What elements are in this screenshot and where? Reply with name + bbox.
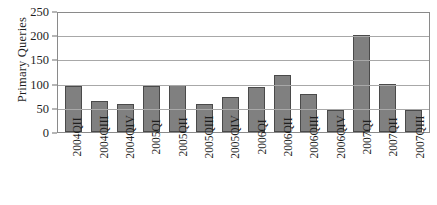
x-axis-tick-label: 2006QIV (336, 115, 348, 158)
gridline (58, 60, 429, 61)
y-axis-tick-50: 50 (37, 103, 50, 116)
x-axis-tick-cell: 2007QI (353, 133, 370, 205)
bar-chart: Primary Queries 250200150100500 2004QII2… (0, 0, 437, 205)
x-axis-tick-cell: 2006QIII (301, 133, 318, 205)
y-axis-tick-150: 150 (30, 54, 49, 67)
x-axis-tick-cell: 2005QII (169, 133, 186, 205)
x-axis-tick-label: 2004QIII (99, 116, 111, 159)
bar-series (58, 13, 429, 132)
y-axis-tick-250: 250 (30, 6, 49, 19)
x-axis-tick-label: 2006QII (283, 118, 295, 157)
y-axis-tick-0: 0 (43, 127, 49, 140)
gridline (58, 85, 429, 86)
x-axis-tick-label: 2005QI (151, 119, 163, 154)
x-axis-tick-cell: 2006QIV (327, 133, 344, 205)
x-axis-tick-label: 2006QI (257, 119, 269, 154)
bar (353, 35, 370, 132)
x-axis-tick-cell: 2006QII (274, 133, 291, 205)
x-axis-tick-label: 2005QII (178, 118, 190, 157)
x-axis-tick-cell: 2005QI (143, 133, 160, 205)
gridline (58, 36, 429, 37)
x-axis-tick-label: 2005QIII (204, 116, 216, 159)
x-axis-tick-label: 2007QIII (415, 116, 427, 159)
x-axis-tick-labels: 2004QII2004QIII2004QIV2005QI2005QII2005Q… (57, 133, 430, 205)
x-axis-tick-cell: 2007QIII (406, 133, 423, 205)
x-axis-tick-cell: 2005QIII (195, 133, 212, 205)
x-axis-tick-cell: 2006QI (248, 133, 265, 205)
x-axis-tick-label: 2007QII (388, 118, 400, 157)
x-axis-tick-label: 2004QII (72, 118, 84, 157)
y-axis-tick-100: 100 (30, 78, 49, 91)
y-axis-tick-labels: 250200150100500 (0, 0, 57, 205)
plot-area (57, 12, 430, 133)
x-axis-tick-cell: 2004QII (64, 133, 81, 205)
x-axis-tick-cell: 2007QII (380, 133, 397, 205)
x-axis-tick-cell: 2004QIV (116, 133, 133, 205)
gridline (58, 109, 429, 110)
x-axis-tick-cell: 2005QIV (222, 133, 239, 205)
x-axis-tick-cell: 2004QIII (90, 133, 107, 205)
x-axis-tick-label: 2007QI (362, 119, 374, 154)
x-axis-tick-label: 2004QIV (125, 115, 137, 158)
x-axis-tick-label: 2005QIV (230, 115, 242, 158)
x-axis-tick-label: 2006QIII (309, 116, 321, 159)
y-axis-tick-200: 200 (30, 30, 49, 43)
